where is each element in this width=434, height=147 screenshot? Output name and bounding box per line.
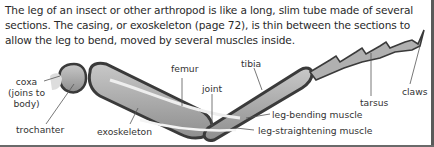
exoskeleton-label: exoskeleton xyxy=(97,126,152,137)
leg-straightening-muscle-label: leg-straightening muscle xyxy=(258,125,372,136)
tarsus-segment xyxy=(310,30,424,80)
page-border-bottom xyxy=(0,145,434,147)
femur-label: femur xyxy=(171,63,198,74)
tibia-label: tibia xyxy=(241,58,261,69)
joint-label: joint xyxy=(202,83,222,94)
coxa-label-line-2: (joins to xyxy=(8,87,45,98)
coxa-label-line-3: body) xyxy=(8,98,45,109)
coxa-label: coxa (joins to body) xyxy=(8,76,45,109)
leg-bending-muscle-label: leg-bending muscle xyxy=(272,109,362,120)
tarsus-label: tarsus xyxy=(360,97,388,108)
coxa-segment xyxy=(50,64,86,92)
claws-label: claws xyxy=(402,86,428,97)
trochanter-label: trochanter xyxy=(16,124,64,135)
coxa-label-line-1: coxa xyxy=(8,76,45,87)
